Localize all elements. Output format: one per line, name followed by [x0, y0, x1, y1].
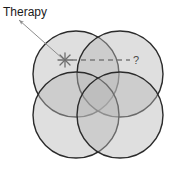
venn-diagram-figure: ? Therapy: [0, 0, 169, 176]
therapy-label: Therapy: [3, 5, 47, 19]
question-mark-annotation: ?: [133, 54, 139, 66]
venn-circle-bottom-right: [77, 72, 163, 158]
star-marker-icon: [58, 53, 72, 67]
